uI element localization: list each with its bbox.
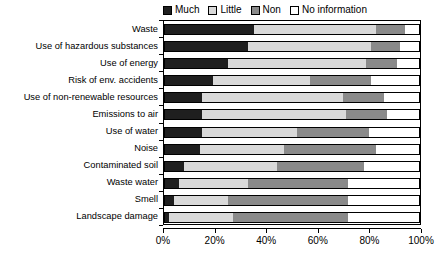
x-axis-tick-label: 100% bbox=[408, 235, 434, 246]
bar-segment-little bbox=[174, 195, 228, 206]
x-axis-tick-label: 80% bbox=[359, 235, 379, 246]
bar-segment-little bbox=[184, 161, 276, 172]
stacked-bar-chart: Much Little Non No information WasteUse … bbox=[0, 0, 444, 268]
legend-swatch-no-information bbox=[290, 6, 299, 15]
bar-row bbox=[164, 24, 420, 35]
bar-segment-much bbox=[164, 92, 202, 103]
bars-container bbox=[164, 21, 420, 224]
category-label: Emissions to air bbox=[0, 109, 158, 119]
legend-label-little: Little bbox=[220, 5, 241, 15]
bar-row bbox=[164, 195, 420, 206]
bar-segment-no-information bbox=[387, 109, 420, 120]
y-axis-tick bbox=[159, 54, 163, 55]
bar-segment-no-information bbox=[364, 161, 420, 172]
bar-segment-little bbox=[202, 127, 297, 138]
bar-segment-no-information bbox=[348, 195, 420, 206]
legend-label-non: Non bbox=[263, 5, 281, 15]
legend-swatch-little bbox=[208, 6, 217, 15]
bar-segment-much bbox=[164, 109, 202, 120]
x-axis-tick bbox=[215, 229, 216, 233]
legend-item-little: Little bbox=[208, 5, 241, 15]
x-axis-tick-label: 40% bbox=[256, 235, 276, 246]
y-axis-tick bbox=[159, 88, 163, 89]
x-axis-tick-label: 0% bbox=[156, 235, 170, 246]
bar-segment-non bbox=[297, 127, 369, 138]
bar-segment-little bbox=[228, 58, 366, 69]
y-axis-tick bbox=[159, 174, 163, 175]
y-axis-tick bbox=[159, 140, 163, 141]
bar-segment-little bbox=[200, 144, 284, 155]
legend-label-much: Much bbox=[175, 5, 199, 15]
bar-segment-much bbox=[164, 178, 179, 189]
category-label: Landscape damage bbox=[0, 211, 158, 221]
category-label: Use of energy bbox=[0, 58, 158, 68]
x-axis-tick-label: 20% bbox=[205, 235, 225, 246]
bar-segment-no-information bbox=[348, 178, 420, 189]
y-axis-tick bbox=[159, 37, 163, 38]
category-label: Smell bbox=[0, 194, 158, 204]
bar-segment-much bbox=[164, 161, 184, 172]
bar-row bbox=[164, 178, 420, 189]
category-label: Waste bbox=[0, 24, 158, 34]
bar-segment-no-information bbox=[405, 24, 420, 35]
bar-segment-no-information bbox=[376, 144, 420, 155]
bar-segment-much bbox=[164, 24, 254, 35]
plot-area bbox=[163, 20, 421, 225]
bar-segment-no-information bbox=[369, 127, 420, 138]
legend-item-no-information: No information bbox=[290, 5, 367, 15]
bar-row bbox=[164, 109, 420, 120]
legend-swatch-non bbox=[251, 6, 260, 15]
y-axis-tick bbox=[159, 157, 163, 158]
category-label: Risk of env. accidents bbox=[0, 75, 158, 85]
x-axis-tick bbox=[421, 229, 422, 233]
legend-item-much: Much bbox=[163, 5, 199, 15]
chart-legend: Much Little Non No information bbox=[163, 2, 421, 18]
legend-label-no-information: No information bbox=[302, 5, 367, 15]
y-axis-tick bbox=[159, 191, 163, 192]
bar-segment-non bbox=[371, 41, 399, 52]
bar-segment-no-information bbox=[400, 41, 420, 52]
bar-segment-much bbox=[164, 144, 200, 155]
bar-segment-little bbox=[248, 41, 371, 52]
bar-segment-non bbox=[233, 212, 348, 223]
bar-segment-much bbox=[164, 195, 174, 206]
bar-segment-no-information bbox=[397, 58, 420, 69]
legend-item-non: Non bbox=[251, 5, 281, 15]
x-axis-tick bbox=[318, 229, 319, 233]
bar-segment-non bbox=[346, 109, 387, 120]
y-axis-tick bbox=[159, 71, 163, 72]
bar-segment-no-information bbox=[384, 92, 420, 103]
bar-segment-little bbox=[202, 109, 345, 120]
bar-segment-non bbox=[284, 144, 376, 155]
category-label: Contaminated soil bbox=[0, 160, 158, 170]
x-axis-tick-label: 60% bbox=[308, 235, 328, 246]
bar-row bbox=[164, 58, 420, 69]
bar-segment-much bbox=[164, 41, 248, 52]
bar-segment-non bbox=[366, 58, 397, 69]
category-label: Use of hazardous substances bbox=[0, 41, 158, 51]
bar-segment-non bbox=[248, 178, 348, 189]
category-label: Use of non-renewable resources bbox=[0, 92, 158, 102]
bar-segment-much bbox=[164, 58, 228, 69]
x-axis-tick bbox=[369, 229, 370, 233]
category-label: Noise bbox=[0, 143, 158, 153]
bar-segment-little bbox=[213, 75, 310, 86]
bar-segment-non bbox=[228, 195, 348, 206]
y-axis-tick bbox=[159, 123, 163, 124]
legend-swatch-much bbox=[163, 6, 172, 15]
bar-row bbox=[164, 127, 420, 138]
bar-segment-little bbox=[179, 178, 248, 189]
y-axis-tick bbox=[159, 208, 163, 209]
category-label: Use of water bbox=[0, 126, 158, 136]
bar-segment-non bbox=[343, 92, 384, 103]
bar-row bbox=[164, 75, 420, 86]
bar-segment-little bbox=[202, 92, 343, 103]
bar-row bbox=[164, 161, 420, 172]
bar-segment-little bbox=[169, 212, 233, 223]
bar-segment-much bbox=[164, 75, 213, 86]
y-axis-tick bbox=[159, 225, 163, 226]
x-axis-tick bbox=[163, 229, 164, 233]
y-axis-tick bbox=[159, 105, 163, 106]
x-axis-tick bbox=[266, 229, 267, 233]
bar-segment-non bbox=[277, 161, 364, 172]
